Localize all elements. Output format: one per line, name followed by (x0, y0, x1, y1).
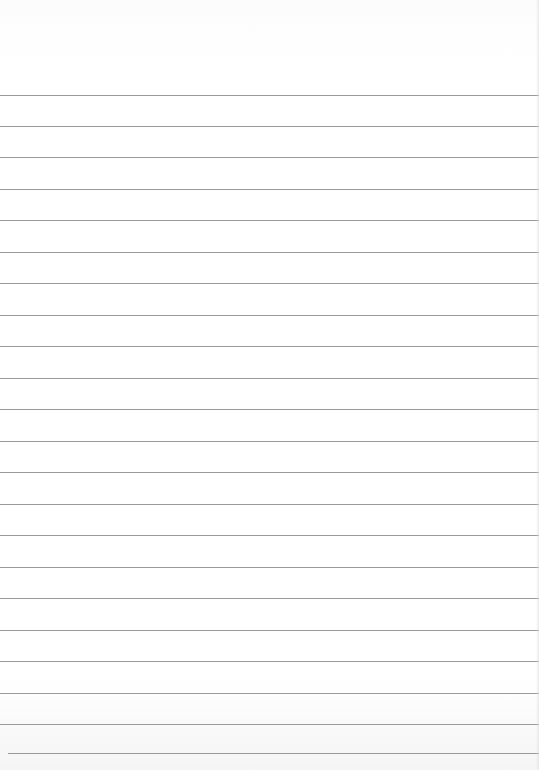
ruled-line (0, 724, 539, 725)
ruled-line (0, 315, 539, 316)
ruled-line (0, 378, 539, 379)
ruled-line (0, 567, 539, 568)
ruled-line (0, 220, 539, 221)
ruled-line (0, 598, 539, 599)
ruled-line (0, 661, 539, 662)
ruled-line (0, 409, 539, 410)
ruled-line (0, 472, 539, 473)
ruled-line (0, 189, 539, 190)
ruled-line (0, 283, 539, 284)
ruled-line (0, 252, 539, 253)
top-margin-area (0, 0, 539, 94)
ruled-line (0, 693, 539, 694)
ruled-line (0, 157, 539, 158)
ruled-line (0, 346, 539, 347)
ruled-line (8, 753, 539, 754)
ruled-line (0, 535, 539, 536)
ruled-line (0, 504, 539, 505)
ruled-line (0, 630, 539, 631)
ruled-line (0, 95, 539, 96)
lined-paper-sheet (0, 0, 539, 770)
ruled-line (0, 441, 539, 442)
ruled-line (0, 126, 539, 127)
